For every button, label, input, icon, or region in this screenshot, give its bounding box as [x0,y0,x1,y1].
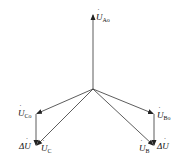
svg-text:·: · [43,137,45,145]
svg-text:·: · [98,6,100,14]
vector-u-bo [93,89,153,114]
label-u-bo: UBo · [157,104,171,121]
svg-text:·: · [20,102,22,110]
vector-u-co [37,89,93,114]
label-u-b: UB · [139,137,150,154]
label-u-ao: UAo · [96,6,110,23]
svg-text:·: · [26,135,28,143]
svg-text:·: · [164,135,166,143]
label-delta-u-left: ΔU · [18,135,31,151]
svg-text:·: · [141,137,143,145]
phasor-diagram: UAo · UCo · ΔU · UC · UBo · UB · ΔU · [0,0,182,167]
svg-text:·: · [159,104,161,112]
svg-text:ΔU: ΔU [156,141,169,151]
label-u-co: UCo · [18,102,32,119]
vector-u-c [37,89,93,145]
svg-text:ΔU: ΔU [18,141,31,151]
vector-u-b [93,89,153,145]
label-u-c: UC · [41,137,52,154]
label-delta-u-right: ΔU · [156,135,169,151]
